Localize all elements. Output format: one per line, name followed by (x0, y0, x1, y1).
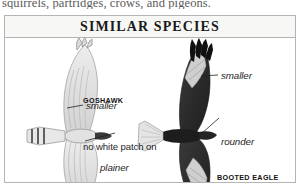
booted-eagle-body (159, 129, 203, 143)
leader-eagle-rounder-head (201, 118, 219, 134)
panel-title: SIMILAR SPECIES (5, 19, 295, 35)
booted-eagle-text-block: BOOTED EAGLE dark form similar to immatu… (217, 137, 286, 183)
booted-eagle-head (199, 131, 217, 140)
similar-species-figure: squirrels, partridges, crows, and pigeon… (0, 0, 301, 184)
body-text-above-figure: squirrels, partridges, crows, and pigeon… (2, 0, 299, 9)
panel-header: SIMILAR SPECIES (5, 16, 295, 38)
illustration-plate: GOSHAWK no white patch on back; see p.13… (5, 38, 295, 182)
goshawk-callout-smaller: smaller (86, 100, 117, 111)
goshawk-callout-plainer-line-1: plainer (100, 162, 136, 173)
goshawk-callout-plainer-below: plainer below (100, 126, 136, 183)
similar-species-panel: SIMILAR SPECIES (4, 15, 296, 183)
booted-eagle-heading: BOOTED EAGLE (217, 173, 286, 182)
booted-eagle-callout-smaller: smaller (221, 70, 252, 81)
